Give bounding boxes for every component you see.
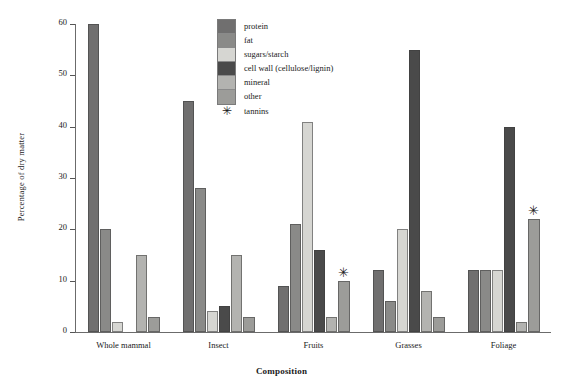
y-axis-tick-label: 20	[59, 222, 68, 232]
legend-item-label: mineral	[244, 75, 270, 89]
legend-swatch	[218, 62, 235, 76]
bar	[278, 286, 290, 332]
bar	[302, 122, 314, 332]
tannins-asterisk-icon: ✳	[528, 206, 540, 216]
bar	[112, 322, 124, 332]
y-axis-ticks: 0102030405060	[0, 0, 75, 385]
bar	[231, 255, 243, 332]
bar	[421, 291, 433, 332]
bar	[397, 229, 409, 332]
legend-item-label: cell wall (cellulose/lignin)	[244, 61, 333, 75]
bar	[195, 188, 207, 332]
bar	[326, 317, 338, 332]
y-axis-tick-label: 50	[59, 68, 68, 78]
legend-item-label: fat	[244, 33, 253, 47]
y-axis-tick-label: 30	[59, 171, 68, 181]
bar	[219, 306, 231, 332]
bar	[207, 311, 219, 332]
legend-swatch	[218, 20, 235, 34]
tannins-asterisk-icon: ✳	[338, 268, 350, 278]
bar-group	[373, 24, 445, 332]
bar	[409, 50, 421, 332]
bar	[480, 270, 492, 332]
bar	[433, 317, 445, 332]
bar	[492, 270, 504, 332]
y-axis-tick-label: 0	[63, 325, 67, 335]
legend-item-label: protein	[244, 19, 268, 33]
bar	[338, 281, 350, 332]
x-axis-line	[75, 332, 551, 333]
bar	[136, 255, 148, 332]
bar	[385, 301, 397, 332]
x-axis-category-label: Foliage	[444, 340, 563, 350]
bar	[100, 229, 112, 332]
bar	[314, 250, 326, 332]
y-axis-tick-label: 10	[59, 274, 68, 284]
bar	[290, 224, 302, 332]
legend-item-label: sugars/starch	[244, 47, 288, 61]
legend-item-label: other	[244, 89, 261, 103]
legend-swatch	[218, 76, 235, 90]
bar	[468, 270, 480, 332]
bar	[183, 101, 195, 332]
bar	[148, 317, 160, 332]
bar-chart-figure: Percentage of dry matter 0102030405060 ✳…	[0, 0, 563, 385]
bar	[243, 317, 255, 332]
legend-swatch-column	[217, 19, 236, 105]
bar	[373, 270, 385, 332]
bar-group: ✳	[468, 24, 540, 332]
bar	[516, 322, 528, 332]
legend-swatch	[218, 34, 235, 48]
y-axis-tick-label: 60	[59, 17, 68, 27]
y-axis-tick-label: 40	[59, 120, 68, 130]
legend-item-tannins: tannins	[244, 104, 269, 118]
bar	[504, 127, 516, 332]
legend-swatch	[218, 48, 235, 62]
tannins-asterisk-icon: ✳	[218, 104, 236, 118]
legend-swatch	[218, 90, 235, 104]
bar	[528, 219, 540, 332]
bar	[88, 24, 100, 332]
bar-group	[88, 24, 160, 332]
x-axis-title: Composition	[0, 366, 563, 376]
